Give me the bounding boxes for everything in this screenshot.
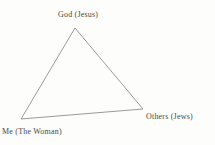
- diagram-canvas: God (Jesus) Others (Jews) Me (The Woman): [0, 0, 215, 145]
- triangle-outline: [21, 28, 143, 119]
- node-label-me: Me (The Woman): [2, 127, 62, 136]
- triangle-shape: [0, 0, 215, 145]
- node-label-god: God (Jesus): [58, 10, 98, 19]
- node-label-others: Others (Jews): [146, 112, 193, 121]
